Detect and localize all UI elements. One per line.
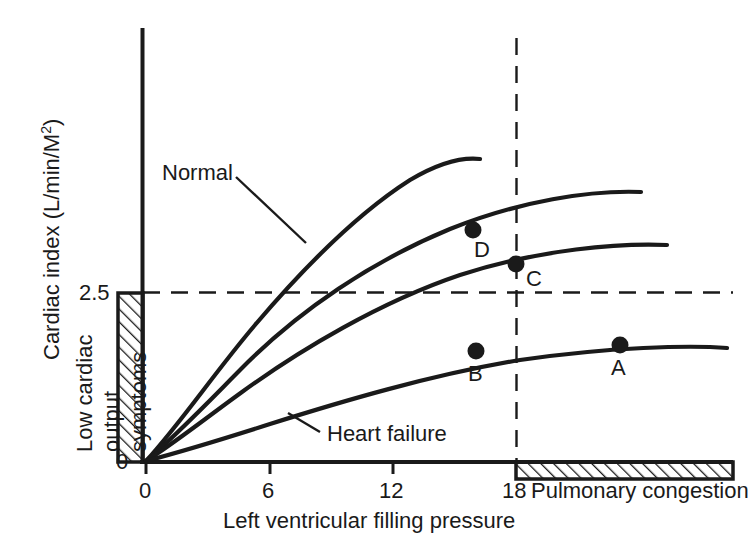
x-tick-label-0: 0 bbox=[139, 478, 151, 504]
y-tick-label-0: 0 bbox=[116, 449, 128, 475]
y-tick-label-2-5: 2.5 bbox=[79, 280, 110, 306]
data-point-b bbox=[468, 343, 485, 360]
y-axis-title-text: Cardiac index (L/min/M bbox=[39, 134, 64, 360]
pulmonary-congestion-label: Pulmonary congestion bbox=[531, 478, 749, 504]
chart-svg bbox=[0, 0, 754, 539]
data-point-label-d: D bbox=[474, 237, 490, 263]
curve-label-normal: Normal bbox=[162, 160, 233, 186]
y-axis-title-tail: ) bbox=[39, 119, 64, 126]
y-axis-title-superscript: 2 bbox=[38, 126, 54, 134]
data-point-c bbox=[508, 256, 525, 273]
data-point-label-a: A bbox=[611, 355, 626, 381]
curves bbox=[146, 159, 727, 461]
x-tick-label-12: 12 bbox=[379, 478, 403, 504]
data-point-label-b: B bbox=[468, 361, 483, 387]
figure-canvas: Cardiac index (L/min/M2) Low cardiac out… bbox=[0, 0, 754, 539]
data-point-label-c: C bbox=[526, 266, 542, 292]
pulmonary-congestion-zone bbox=[516, 462, 733, 479]
y-axis-title: Cardiac index (L/min/M2) bbox=[38, 119, 65, 360]
leader-normal bbox=[236, 177, 306, 243]
low-cardiac-output-label-line1: Low cardiac bbox=[72, 335, 98, 452]
data-point-a bbox=[612, 337, 629, 354]
low-cardiac-output-label-line3: symptoms bbox=[126, 352, 152, 452]
x-tick-label-18: 18 bbox=[502, 478, 526, 504]
x-tick-label-6: 6 bbox=[262, 478, 274, 504]
data-point-d bbox=[465, 222, 482, 239]
x-axis-title: Left ventricular filling pressure bbox=[223, 508, 515, 534]
curve-label-heart-failure: Heart failure bbox=[327, 421, 447, 447]
annotation-leaders bbox=[236, 177, 320, 432]
leader-heart-failure bbox=[288, 413, 320, 432]
low-cardiac-output-label-line2: output bbox=[99, 391, 125, 452]
